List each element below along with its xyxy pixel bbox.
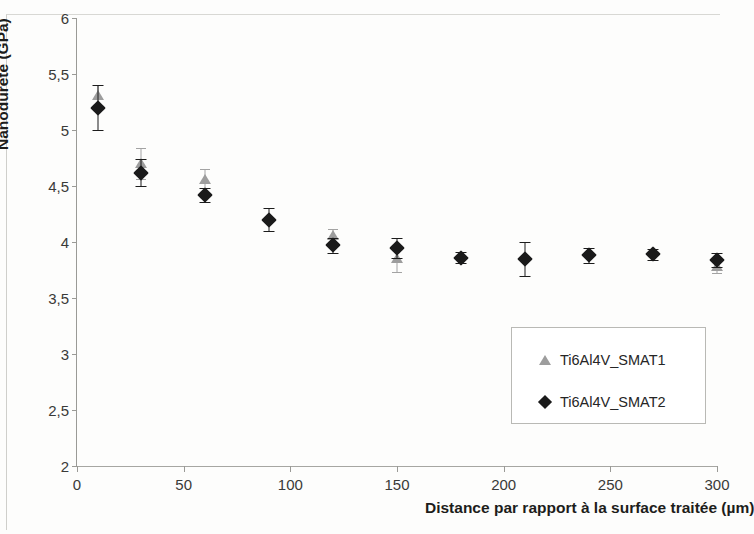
y-tick-label: 2,5 — [48, 402, 69, 419]
x-tick-label: 250 — [598, 476, 623, 493]
x-tick-label: 50 — [175, 476, 192, 493]
legend-label: Ti6Al4V_SMAT2 — [560, 394, 666, 410]
error-bar-cap — [584, 263, 595, 264]
y-tick — [72, 354, 77, 355]
x-axis-title: Distance par rapport à la surface traité… — [425, 499, 754, 517]
legend-label: Ti6Al4V_SMAT1 — [560, 352, 666, 368]
error-bar-cap — [93, 85, 104, 86]
error-bar-cap — [392, 238, 403, 239]
y-tick — [72, 186, 77, 187]
x-tick-label: 0 — [73, 476, 81, 493]
x-tick — [184, 466, 185, 472]
y-tick-label: 4 — [61, 234, 69, 251]
x-tick-label: 300 — [704, 476, 729, 493]
x-tick — [504, 466, 505, 472]
legend-item[interactable]: Ti6Al4V_SMAT2 — [538, 394, 666, 410]
x-tick-label: 100 — [278, 476, 303, 493]
error-bar-cap — [520, 276, 531, 277]
error-bar-cap — [712, 273, 722, 274]
y-tick — [72, 130, 77, 131]
y-tick-label: 3,5 — [48, 290, 69, 307]
data-point-smat2 — [517, 251, 533, 267]
x-tick — [77, 466, 78, 472]
error-bar-cap — [392, 272, 402, 273]
legend-item[interactable]: Ti6Al4V_SMAT1 — [538, 352, 666, 368]
error-bar-cap — [392, 258, 403, 259]
error-bar-cap — [136, 148, 146, 149]
data-point-smat2 — [581, 248, 597, 264]
data-point-smat2 — [91, 100, 107, 116]
error-bar-cap — [93, 130, 104, 131]
error-bar-cap — [328, 253, 339, 254]
data-point-smat1 — [199, 174, 211, 184]
x-tick — [610, 466, 611, 472]
y-tick-label: 5 — [61, 122, 69, 139]
y-tick-label: 5,5 — [48, 66, 69, 83]
y-tick — [72, 74, 77, 75]
y-tick-label: 4,5 — [48, 178, 69, 195]
x-tick-label: 150 — [384, 476, 409, 493]
y-tick — [72, 298, 77, 299]
data-point-smat2 — [197, 187, 213, 203]
y-tick-label: 6 — [61, 10, 69, 27]
error-bar-cap — [264, 208, 275, 209]
error-bar-cap — [200, 169, 210, 170]
error-bar-cap — [328, 229, 338, 230]
error-bar-cap — [136, 186, 147, 187]
y-axis-title: Nanodureté (GPa) — [0, 18, 12, 150]
triangle-marker-icon — [538, 355, 551, 365]
x-tick — [717, 466, 718, 472]
y-tick — [72, 18, 77, 19]
y-tick — [72, 242, 77, 243]
y-tick — [72, 410, 77, 411]
diamond-marker-icon — [538, 397, 551, 407]
error-bar-cap — [520, 242, 531, 243]
x-tick — [290, 466, 291, 472]
data-point-smat2 — [261, 212, 277, 228]
error-bar-cap — [136, 159, 147, 160]
x-tick — [397, 466, 398, 472]
x-tick-label: 200 — [491, 476, 516, 493]
y-tick-label: 2 — [61, 458, 69, 475]
chart-legend: Ti6Al4V_SMAT1Ti6Al4V_SMAT2 — [511, 327, 706, 424]
error-bar-cap — [264, 231, 275, 232]
y-tick-label: 3 — [61, 346, 69, 363]
